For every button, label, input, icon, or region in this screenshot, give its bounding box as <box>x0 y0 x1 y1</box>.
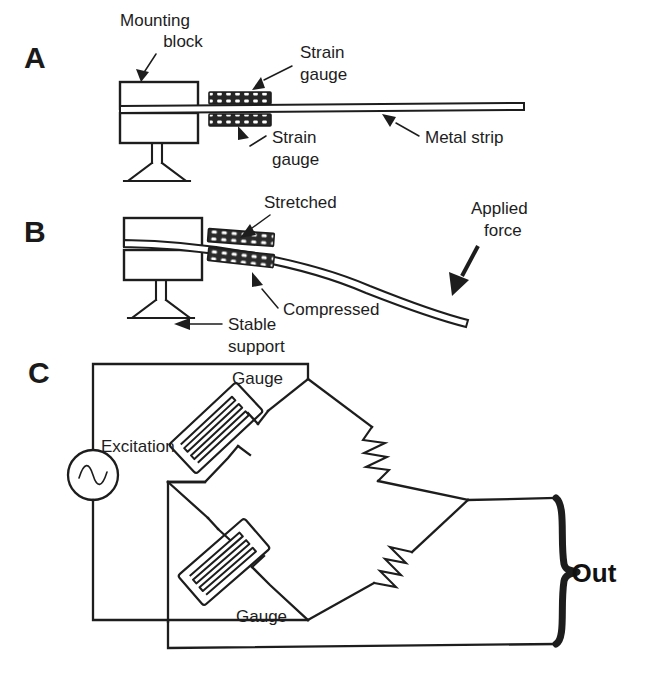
bridge-arm-bottom-right-lower <box>308 583 374 620</box>
stable-support-label-line1: Stable <box>228 315 276 334</box>
strain-gauge-bottom-label-line1: Strain <box>272 128 316 147</box>
panel-a-letter: A <box>24 41 46 74</box>
resistor-bottom-right <box>374 547 412 587</box>
mounting-block-arrowhead <box>136 69 149 82</box>
stable-support-label-line2: support <box>228 337 285 356</box>
metal-strip-arrowhead <box>382 114 396 127</box>
panel-a: A Mounting block Strain <box>24 11 524 181</box>
gauge-top-label: Gauge <box>232 369 283 388</box>
mounting-block-leader <box>143 54 156 74</box>
mounting-block-label-line1: Mounting <box>120 11 190 30</box>
bridge-arm-bottom-left-jog <box>208 518 218 529</box>
stretched-label: Stretched <box>264 193 337 212</box>
panel-c-letter: C <box>28 356 50 389</box>
gauge-top <box>169 382 264 474</box>
compressed-label: Compressed <box>283 300 379 319</box>
metal-strip-leader <box>396 123 419 136</box>
strain-gauge-upper-a <box>209 92 271 104</box>
strain-gauge-compressed-b <box>207 247 274 267</box>
strain-gauge-bottom-leader <box>250 136 266 146</box>
resistor-top-right <box>363 427 389 481</box>
strain-gauge-bottom-label-line2: gauge <box>272 150 319 169</box>
output-wire-bottom <box>168 622 556 648</box>
mounting-block-lower-b <box>124 250 202 280</box>
strain-gauge-top-label-line2: gauge <box>300 65 347 84</box>
stable-support-b <box>128 280 194 318</box>
panel-b: B Stretched Compressed <box>24 193 528 356</box>
strain-gauge-bottom-arrowhead <box>238 126 249 140</box>
strain-gauge-top-leader <box>264 66 292 80</box>
compressed-arrowhead <box>252 272 263 287</box>
gauge-top-tab-lower <box>238 446 250 455</box>
figure-canvas: A Mounting block Strain <box>0 0 652 673</box>
applied-force-arrowhead <box>449 272 469 296</box>
applied-force-label-line1: Applied <box>471 199 528 218</box>
mounting-block-label-line2: block <box>163 32 203 51</box>
mounting-block-lower <box>120 113 198 143</box>
stretched-leader <box>252 215 270 228</box>
metal-strip-label: Metal strip <box>425 128 503 147</box>
bridge-arm-top-right-upper <box>308 379 372 427</box>
strain-gauge-lower-a <box>209 114 271 126</box>
panel-c: C <box>28 356 617 648</box>
applied-force-leader <box>462 246 478 276</box>
strain-gauge-figure: A Mounting block Strain <box>0 0 652 673</box>
output-wire-top <box>468 498 556 500</box>
strain-gauge-top-label-line1: Strain <box>300 43 344 62</box>
panel-b-letter: B <box>24 215 46 248</box>
stable-support-a <box>124 143 190 181</box>
excitation-label: Excitation <box>101 437 175 456</box>
applied-force-label-line2: force <box>484 221 522 240</box>
bridge-arm-bottom-left-upper <box>168 482 208 518</box>
stable-support-arrowhead <box>174 318 190 330</box>
excitation-source <box>68 450 118 500</box>
bridge-arm-bottom-right-upper <box>412 500 468 552</box>
out-label: Out <box>572 558 617 588</box>
bridge-arm-top-right-lower <box>378 481 468 500</box>
strain-gauge-top-arrowhead <box>252 77 265 90</box>
compressed-leader <box>262 289 278 308</box>
gauge-top-body <box>169 382 264 474</box>
gauge-bottom-label: Gauge <box>236 607 287 626</box>
